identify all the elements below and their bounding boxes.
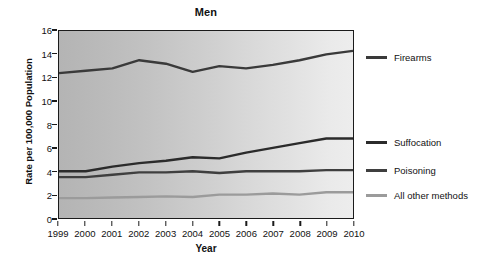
legend-swatch-icon bbox=[366, 141, 387, 144]
y-tick-mark bbox=[52, 147, 57, 148]
y-tick-label: 14 bbox=[26, 48, 52, 59]
plot-lines bbox=[59, 31, 353, 218]
y-tick-label: 16 bbox=[26, 25, 52, 36]
x-tick-mark bbox=[353, 221, 354, 226]
x-tick-mark bbox=[246, 221, 247, 226]
y-tick-label: 6 bbox=[26, 143, 52, 154]
legend-item: Firearms bbox=[366, 52, 431, 64]
y-tick-label: 8 bbox=[26, 119, 52, 130]
x-tick-label: 2007 bbox=[263, 228, 284, 239]
y-tick-label: 12 bbox=[26, 72, 52, 83]
y-tick-label: 4 bbox=[26, 166, 52, 177]
x-tick-label: 2002 bbox=[128, 228, 149, 239]
x-axis-title: Year bbox=[58, 243, 354, 254]
y-tick-mark bbox=[52, 195, 57, 196]
y-tick-mark bbox=[52, 29, 57, 30]
x-tick-mark bbox=[57, 221, 58, 226]
x-tick-mark bbox=[273, 221, 274, 226]
series-line bbox=[59, 170, 353, 177]
x-tick-mark bbox=[326, 221, 327, 226]
legend-label: Suffocation bbox=[394, 137, 441, 148]
y-axis-tick-labels: 0246810121416 bbox=[22, 30, 52, 219]
legend-item: Suffocation bbox=[366, 136, 441, 148]
legend-label: All other methods bbox=[394, 190, 468, 201]
x-tick-label: 2004 bbox=[182, 228, 203, 239]
legend-swatch-icon bbox=[366, 194, 387, 197]
x-tick-mark bbox=[192, 221, 193, 226]
y-tick-mark bbox=[52, 218, 57, 219]
x-tick-mark bbox=[165, 221, 166, 226]
y-tick-mark bbox=[52, 53, 57, 54]
legend-item: All other methods bbox=[366, 190, 468, 202]
x-tick-mark bbox=[299, 221, 300, 226]
x-tick-mark bbox=[111, 221, 112, 226]
plot-area bbox=[58, 30, 354, 219]
x-tick-label: 2009 bbox=[317, 228, 338, 239]
chart-legend: FirearmsSuffocationPoisoningAll other me… bbox=[366, 30, 488, 219]
x-tick-label: 2006 bbox=[236, 228, 257, 239]
y-tick-label: 0 bbox=[26, 214, 52, 225]
y-tick-label: 10 bbox=[26, 95, 52, 106]
x-tick-label: 2010 bbox=[343, 228, 364, 239]
x-tick-mark bbox=[84, 221, 85, 226]
y-tick-label: 2 bbox=[26, 190, 52, 201]
x-axis-tick-labels: 1999200020012002200320042005200620072008… bbox=[58, 221, 354, 243]
x-tick-label: 2008 bbox=[290, 228, 311, 239]
chart-figure: Men Rate per 100,000 Population 02468101… bbox=[0, 0, 488, 273]
series-line bbox=[59, 139, 353, 172]
x-tick-mark bbox=[219, 221, 220, 226]
series-line bbox=[59, 192, 353, 198]
y-tick-mark bbox=[52, 171, 57, 172]
legend-swatch-icon bbox=[366, 169, 387, 172]
y-tick-mark bbox=[52, 124, 57, 125]
chart-title: Men bbox=[58, 6, 354, 18]
x-tick-label: 1999 bbox=[47, 228, 68, 239]
x-tick-label: 2005 bbox=[209, 228, 230, 239]
legend-label: Firearms bbox=[394, 52, 431, 63]
legend-label: Poisoning bbox=[394, 165, 436, 176]
x-tick-label: 2003 bbox=[155, 228, 176, 239]
x-tick-label: 2000 bbox=[74, 228, 95, 239]
legend-swatch-icon bbox=[366, 56, 387, 59]
series-line bbox=[59, 51, 353, 73]
y-tick-mark bbox=[52, 77, 57, 78]
legend-item: Poisoning bbox=[366, 165, 436, 177]
y-tick-mark bbox=[52, 100, 57, 101]
x-tick-mark bbox=[138, 221, 139, 226]
x-tick-label: 2001 bbox=[101, 228, 122, 239]
